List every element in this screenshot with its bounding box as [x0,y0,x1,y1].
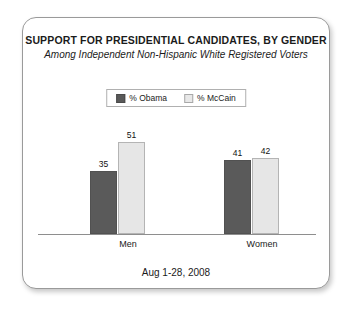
title-block: SUPPORT FOR PRESIDENTIAL CANDIDATES, BY … [23,34,329,62]
chart-legend: % Obama % McCain [106,89,246,107]
x-axis-line [38,234,316,235]
chart-subtitle: Among Independent Non-Hispanic White Reg… [23,48,329,62]
legend-item-mccain: % McCain [184,93,236,103]
plot-area: 35 51 41 42 [38,118,316,235]
category-label-women: Women [222,239,302,249]
bar-wrap-men-mccain: 51 [118,130,145,234]
bar-value-women-mccain: 42 [261,146,270,156]
bar-wrap-men-obama: 35 [90,159,117,234]
bar-group-men: 35 51 [90,130,145,234]
footer-date: Aug 1-28, 2008 [23,267,329,278]
bar-wrap-women-obama: 41 [224,148,251,234]
legend-label-obama: % Obama [129,93,167,103]
legend-label-mccain: % McCain [197,93,236,103]
bar-women-obama [224,160,251,234]
bar-group-women: 41 42 [224,146,279,234]
chart-title: SUPPORT FOR PRESIDENTIAL CANDIDATES, BY … [23,34,329,47]
legend-swatch-obama-icon [116,94,125,103]
bar-wrap-women-mccain: 42 [252,146,279,234]
bar-women-mccain [252,158,279,234]
bar-men-obama [90,171,117,234]
legend-swatch-mccain-icon [184,94,193,103]
bar-value-men-obama: 35 [99,159,108,169]
legend-item-obama: % Obama [116,93,167,103]
bar-value-women-obama: 41 [233,148,242,158]
category-label-men: Men [88,239,168,249]
bar-value-men-mccain: 51 [127,130,136,140]
bar-men-mccain [118,142,145,234]
chart-card: SUPPORT FOR PRESIDENTIAL CANDIDATES, BY … [22,17,330,289]
